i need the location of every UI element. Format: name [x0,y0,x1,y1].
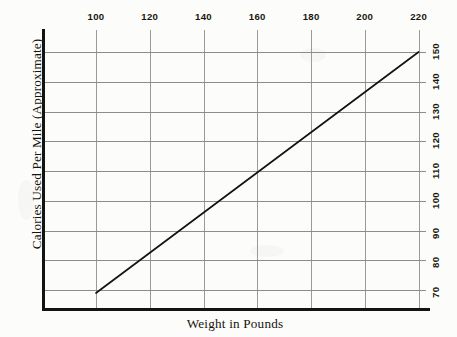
gridline-horizontal [44,231,426,232]
gridline-vertical [96,30,97,308]
x-axis-title: Weight in Pounds [44,316,426,332]
paper-blotch [300,48,326,62]
y-tick-label: 140 [428,56,444,90]
y-axis-title: Calories Used Per Mile (Approximate) [29,19,45,269]
x-tick-label: 100 [76,11,116,22]
y-tick-label: 90 [428,205,444,239]
x-tick-label: 200 [345,11,385,22]
y-tick-label: 130 [428,86,444,120]
x-axis-line [42,308,430,311]
y-tick-label: 100 [428,175,444,209]
gridline-vertical [204,30,205,308]
y-tick-label: 150 [428,26,444,60]
gridline-horizontal [44,260,426,261]
x-tick-label: 220 [399,11,439,22]
gridline-vertical [150,30,151,308]
x-tick-label: 160 [237,11,277,22]
gridline-vertical [419,30,420,308]
gridline-horizontal [44,141,426,142]
gridline-horizontal [44,201,426,202]
y-tick-label: 80 [428,234,444,268]
x-tick-label: 120 [130,11,170,22]
gridline-horizontal [44,112,426,113]
chart-figure: 100120140160180200220 708090100110120130… [0,0,457,337]
paper-blotch [250,245,284,257]
y-tick-label: 70 [428,264,444,298]
y-tick-label: 120 [428,115,444,149]
gridline-horizontal [44,82,426,83]
gridline-horizontal [44,52,426,53]
gridline-vertical [365,30,366,308]
y-tick-label: 110 [428,145,444,179]
x-tick-label: 140 [184,11,224,22]
gridline-vertical [257,30,258,308]
x-tick-label: 180 [291,11,331,22]
gridline-vertical [311,30,312,308]
gridline-horizontal [44,290,426,291]
data-line-svg [0,0,457,337]
gridline-horizontal [44,171,426,172]
